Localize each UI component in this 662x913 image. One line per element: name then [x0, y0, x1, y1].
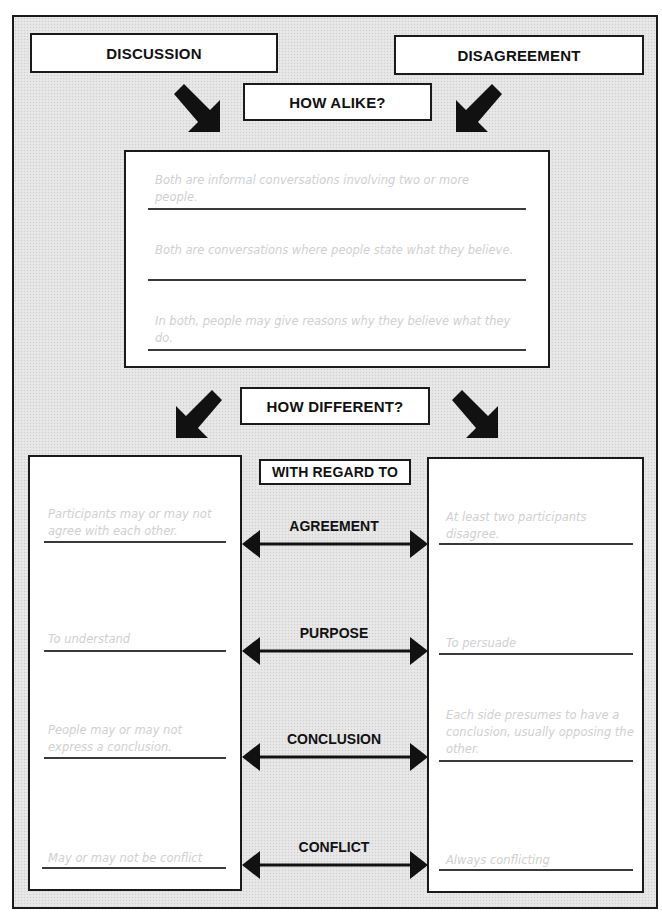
alike-answer-1: Both are informal conversations involvin…	[155, 172, 515, 206]
disagreement-conclusion-line	[439, 760, 633, 762]
alike-answer-2: Both are conversations where people stat…	[155, 242, 515, 259]
how-alike-label: HOW ALIKE?	[289, 94, 385, 111]
how-different-box: HOW DIFFERENT?	[240, 387, 430, 425]
double-arrow-icon	[240, 849, 430, 881]
discussion-conflict-line	[42, 867, 226, 869]
discussion-conclusion-answer: People may or may not express a conclusi…	[48, 722, 213, 756]
arrow-down-left-icon	[172, 388, 224, 440]
double-arrow-icon	[240, 741, 430, 773]
disagreement-agreement-answer: At least two participants disagree.	[446, 509, 626, 543]
double-arrow-icon	[240, 528, 430, 560]
alike-answer-3: In both, people may give reasons why the…	[155, 313, 515, 347]
disagreement-conflict-answer: Always conflicting	[446, 852, 626, 869]
with-regard-to-label: WITH REGARD TO	[272, 464, 398, 480]
disagreement-conflict-line	[439, 869, 633, 871]
disagreement-conclusion-answer: Each side presumes to have a conclusion,…	[446, 707, 636, 758]
discussion-purpose-line	[44, 650, 226, 652]
discussion-title: DISCUSSION	[106, 45, 201, 62]
discussion-conclusion-line	[44, 757, 226, 759]
with-regard-to-box: WITH REGARD TO	[259, 459, 411, 485]
how-alike-box: HOW ALIKE?	[243, 83, 432, 121]
double-arrow-icon	[240, 635, 430, 667]
alike-answer-line-3	[148, 349, 526, 351]
disagreement-title-box: DISAGREEMENT	[394, 35, 644, 75]
disagreement-title: DISAGREEMENT	[457, 47, 580, 64]
discussion-agreement-answer: Participants may or may not agree with e…	[48, 506, 233, 540]
discussion-agreement-line	[44, 541, 226, 543]
how-different-label: HOW DIFFERENT?	[267, 398, 404, 415]
arrow-down-left-icon	[452, 82, 504, 134]
alike-answer-line-2	[148, 279, 526, 281]
discussion-conflict-answer: May or may not be conflict	[48, 850, 233, 867]
discussion-title-box: DISCUSSION	[30, 33, 278, 73]
alike-answer-line-1	[148, 208, 526, 210]
disagreement-purpose-line	[439, 653, 633, 655]
arrow-down-right-icon	[450, 388, 502, 440]
disagreement-purpose-answer: To persuade	[446, 635, 626, 652]
disagreement-agreement-line	[439, 543, 633, 545]
discussion-purpose-answer: To understand	[48, 631, 233, 648]
arrow-down-right-icon	[172, 82, 224, 134]
